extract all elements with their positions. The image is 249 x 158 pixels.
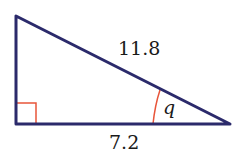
hypotenuse-label: 11.8 — [118, 39, 160, 58]
angle-arc — [153, 90, 160, 124]
triangle-edges — [16, 16, 230, 124]
angle-label: q — [163, 98, 175, 117]
right-angle-marker — [16, 103, 36, 124]
base-label: 7.2 — [109, 133, 139, 152]
triangle-diagram: 11.8 q 7.2 — [0, 0, 249, 158]
